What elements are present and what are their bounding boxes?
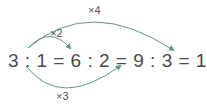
label-x4: ×4 (88, 4, 101, 16)
ratio-diagram: ×4 ×2 ×3 3 : 1 = 6 : 2 = 9 : 3 = 12 : 4 (0, 0, 207, 108)
arrow-x2 (28, 37, 70, 49)
label-x2: ×2 (50, 27, 63, 39)
ratio-equation: 3 : 1 = 6 : 2 = 9 : 3 = 12 : 4 (8, 50, 207, 72)
label-x3: ×3 (56, 90, 69, 102)
